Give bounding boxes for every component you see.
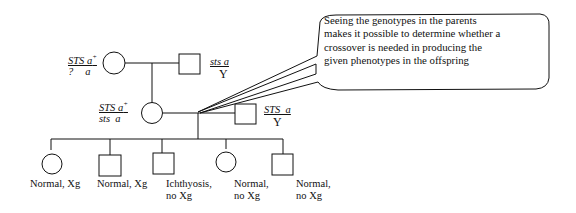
offspring-1-label: Normal, Xg [30,178,80,190]
offspring-4-label: Normal, no Xg [234,178,269,202]
offspring-3-male-symbol [153,153,174,174]
offspring-3-phenotype: Ichthyosis, [166,178,212,190]
offspring-5-phenotype: Normal, [296,178,331,190]
offspring-1-phenotype: Normal, Xg [30,178,80,190]
mother-allele-sup: + [123,100,128,108]
grandfather-genotype-bottom: Y [219,68,228,80]
grandmother-allele-sup: + [92,53,97,61]
callout-line-1: Seeing the genotypes in the parents [324,14,524,27]
offspring-4-phenotype: Normal, [234,178,269,190]
offspring-4-female-symbol [216,152,236,172]
callout-line-2: makes it possible to determine whether a [324,27,524,40]
offspring-4-xg: no Xg [234,190,269,202]
callout-text: Seeing the genotypes in the parents make… [324,14,524,67]
offspring-2-label: Normal, Xg [97,178,147,190]
offspring-1-female-symbol [42,154,62,174]
father-symbol [235,104,256,124]
offspring-5-label: Normal, no Xg [296,178,331,202]
callout-line-3: crossover is needed in producing the [324,41,524,54]
mother-symbol [142,103,163,124]
grandfather-symbol [179,54,200,74]
callout-line-4: given phenotypes in the offspring [324,54,524,67]
grandmother-genotype-top: STS a+ [68,51,97,67]
grandmother-allele-bottom: a [85,66,90,77]
mother-allele-top: STS a [99,102,123,113]
grandmother-allele-top: STS a [68,55,92,66]
offspring-5-xg: no Xg [296,190,331,202]
offspring-2-phenotype: Normal, Xg [97,178,147,190]
grandmother-unknown-allele: ? [68,66,73,77]
offspring-2-male-symbol [99,155,121,176]
father-genotype-bottom: Y [273,116,282,128]
grandmother-symbol [103,52,125,74]
grandmother-genotype-bottom: ?a [68,66,91,78]
offspring-3-label: Ichthyosis, no Xg [166,178,212,202]
mother-genotype-bottom: sts a [99,113,121,125]
offspring-3-xg: no Xg [166,190,212,202]
offspring-5-male-symbol [272,154,293,175]
mother-genotype-top: STS a+ [99,98,128,114]
